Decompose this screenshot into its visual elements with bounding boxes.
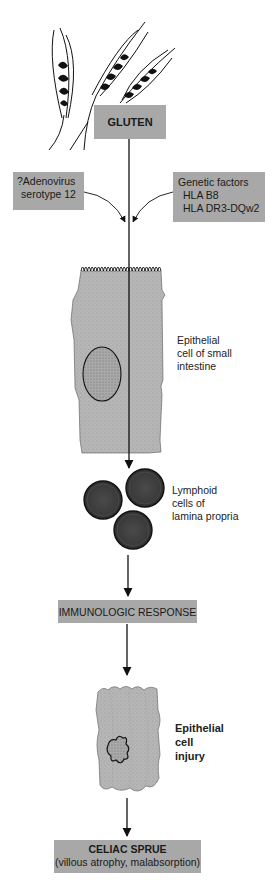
epithelial-cell-line2: cell of small bbox=[177, 347, 232, 360]
epithelial-cell-illustration bbox=[71, 267, 165, 453]
lymphoid-line2: cells of bbox=[172, 497, 239, 510]
injury-line3: injury bbox=[175, 749, 224, 763]
immunologic-label: IMMUNOLOGIC RESPONSE bbox=[59, 606, 197, 618]
adenovirus-line1: ?Adenovirus bbox=[17, 175, 80, 188]
genetic-line2: HLA B8 bbox=[178, 189, 260, 202]
celiac-sprue-box: CELIAC SPRUE (villous atrophy, malabsorp… bbox=[54, 840, 201, 873]
nucleus-icon bbox=[83, 347, 121, 401]
epithelial-cell-line1: Epithelial bbox=[177, 334, 232, 347]
epithelial-cell-label: Epithelial cell of small intestine bbox=[177, 334, 232, 373]
gluten-label: GLUTEN bbox=[107, 116, 152, 128]
lymphoid-line3: lamina propria bbox=[172, 510, 239, 523]
genetic-line3: HLA DR3-DQw2 bbox=[178, 202, 260, 215]
epithelial-cell-line3: intestine bbox=[177, 360, 232, 373]
arrow-genetic bbox=[133, 192, 173, 222]
adenovirus-line2: serotype 12 bbox=[17, 188, 80, 201]
arrow-adenovirus bbox=[84, 192, 125, 222]
genetic-line1: Genetic factors bbox=[178, 176, 260, 189]
adenovirus-box: ?Adenovirus serotype 12 bbox=[13, 172, 84, 210]
celiac-subtitle: (villous atrophy, malabsorption) bbox=[54, 856, 201, 869]
gluten-box: GLUTEN bbox=[94, 105, 166, 139]
injured-cell-illustration bbox=[96, 687, 160, 792]
immunologic-response-box: IMMUNOLOGIC RESPONSE bbox=[58, 600, 197, 623]
lymphoid-cells-illustration bbox=[84, 469, 164, 549]
diagram-canvas: GLUTEN ?Adenovirus serotype 12 Genetic f… bbox=[0, 0, 280, 896]
lymphoid-line1: Lymphoid bbox=[172, 484, 239, 497]
injury-line2: cell bbox=[175, 735, 224, 749]
genetic-factors-box: Genetic factors HLA B8 HLA DR3-DQw2 bbox=[173, 172, 265, 222]
lymphoid-label: Lymphoid cells of lamina propria bbox=[172, 484, 239, 523]
injury-line1: Epithelial bbox=[175, 721, 224, 735]
injury-label: Epithelial cell injury bbox=[175, 721, 224, 763]
celiac-title: CELIAC SPRUE bbox=[54, 843, 201, 856]
